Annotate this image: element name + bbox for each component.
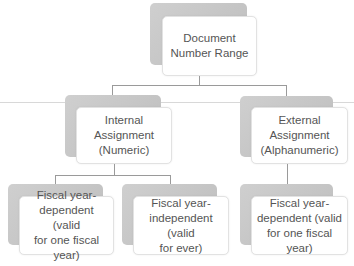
connector [112,85,287,86]
external-assignment-node: External Assignment (Alphanumeric) [251,107,348,164]
external-line-2: Assignment [261,128,339,143]
fy-dependent-internal-node: Fiscal year- dependent (valid for one fi… [19,196,114,255]
connector [55,175,56,184]
connector [55,175,171,176]
connector [287,164,288,184]
node-line-3: for ever) [138,241,224,256]
node-line-2: independent (valid [138,211,224,241]
connector [199,76,200,85]
node-line-2: dependent (valid [24,203,109,233]
connector [170,175,171,184]
internal-line-3: (Numeric) [94,143,154,158]
internal-line-1: Internal [94,113,154,128]
root-line-1: Document [171,31,249,46]
connector [286,85,287,96]
node-line-3: for one fiscal year) [256,226,343,256]
node-line-3: for one fiscal year) [24,233,109,263]
root-node: Document Number Range [162,16,257,76]
fy-independent-internal-node: Fiscal year- independent (valid for ever… [133,196,229,255]
external-line-3: (Alphanumeric) [261,143,339,158]
connector [114,164,115,175]
node-line-2: dependent (valid [256,211,343,226]
fy-dependent-external-node: Fiscal year- dependent (valid for one fi… [251,196,348,255]
node-line-1: Fiscal year- [138,196,224,211]
external-line-1: External [261,113,339,128]
internal-line-2: Assignment [94,128,154,143]
node-line-1: Fiscal year- [256,196,343,211]
node-line-1: Fiscal year- [24,188,109,203]
internal-assignment-node: Internal Assignment (Numeric) [76,107,172,164]
root-line-2: Number Range [171,46,249,61]
